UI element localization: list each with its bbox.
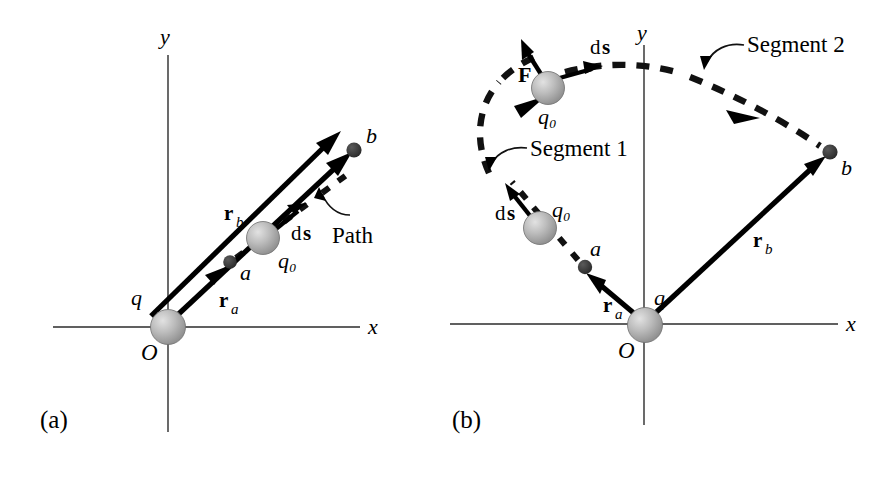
panel-a-test-charge-label: q₀	[278, 248, 297, 273]
panel-b-source-charge-label: q	[654, 285, 665, 310]
svg-text:q₀: q₀	[278, 248, 297, 273]
panel-b-tag: (b)	[452, 406, 481, 434]
panel-a-test-charge-sphere	[247, 222, 280, 255]
svg-text:d: d	[495, 201, 506, 225]
panel-b-upper-test-charge-sphere	[532, 72, 565, 105]
panel-b-y-axis-label: y	[635, 20, 647, 45]
panel-b-lower-test-charge-label: q₀	[552, 197, 571, 222]
svg-text:a: a	[615, 306, 623, 322]
panel-b-force-label: F	[518, 62, 531, 87]
panel-b-upper-test-charge-label: q₀	[538, 104, 557, 129]
panel-a-origin-label: O	[141, 340, 158, 365]
panel-a-path-label: Path	[332, 223, 373, 248]
panel-b-segment2-callout-arrowhead	[700, 56, 712, 70]
panel-b-point-a-label: a	[590, 236, 601, 261]
panel-a-x-axis-label: x	[367, 314, 378, 339]
panel-b-point-b-label: b	[841, 155, 852, 180]
svg-text:d: d	[590, 35, 601, 59]
svg-text:s: s	[303, 221, 311, 245]
panel-b-segment2-direction-arrowhead	[726, 110, 760, 124]
physics-figure-svg: y x O q b a q₀ r a r b d s	[0, 0, 895, 478]
panel-a-vector-ra-label: r a	[219, 288, 239, 317]
panel-a-vector-rb-label: r b	[224, 201, 244, 230]
svg-text:r: r	[753, 228, 762, 252]
panel-b-origin-label: O	[618, 338, 635, 363]
svg-text:q₀: q₀	[552, 197, 571, 222]
panel-b-vector-rb-label: r b	[753, 228, 773, 257]
panel-b-vector-ra-arrowhead	[586, 273, 606, 294]
panel-b-x-axis-label: x	[845, 311, 856, 336]
svg-text:s: s	[602, 35, 610, 59]
panel-a-point-b-label: b	[366, 123, 377, 148]
panel-a-point-a-label: a	[240, 260, 251, 285]
svg-text:b: b	[236, 214, 244, 230]
figure-root: y x O q b a q₀ r a r b d s	[0, 0, 895, 478]
panel-a-path-callout-leader	[322, 194, 350, 215]
svg-text:s: s	[507, 201, 515, 225]
panel-b-vector-rb-shaft	[650, 168, 812, 318]
panel-b-segment1-label: Segment 1	[530, 136, 628, 161]
panel-a-vector-ds-label: d s	[291, 221, 311, 245]
svg-text:d: d	[291, 221, 302, 245]
svg-text:r: r	[219, 288, 228, 312]
panel-a-source-charge-label: q	[131, 285, 142, 310]
panel-b-point-a-marker	[578, 260, 592, 274]
svg-text:a: a	[231, 301, 239, 317]
panel-b-segment2-callout-leader	[707, 44, 744, 62]
svg-text:b: b	[765, 241, 773, 257]
panel-b-segment2-arc-right	[690, 77, 820, 146]
panel-a: y x O q b a q₀ r a r b d s	[40, 24, 378, 434]
panel-b-upper-ds-label: d s	[590, 35, 610, 59]
panel-b-segment2-label: Segment 2	[747, 32, 845, 57]
panel-a-y-axis-label: y	[158, 24, 170, 49]
panel-b: y x O q b a q₀ q₀ r a r b	[450, 20, 856, 434]
panel-b-lower-ds-label: d s	[495, 201, 515, 225]
panel-b-point-b-marker	[822, 144, 837, 159]
svg-text:r: r	[603, 293, 612, 317]
svg-text:q₀: q₀	[538, 104, 557, 129]
panel-b-segment1-callout-leader	[492, 148, 527, 163]
panel-a-tag: (a)	[40, 406, 68, 434]
panel-a-point-b-marker	[346, 142, 361, 157]
svg-text:r: r	[224, 201, 233, 225]
panel-a-point-a-marker	[223, 255, 237, 269]
